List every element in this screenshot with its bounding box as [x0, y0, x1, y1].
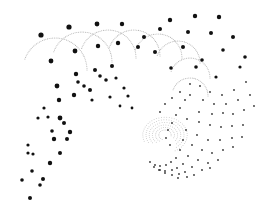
trail-dot: [185, 78, 186, 79]
swirl-dot: [153, 126, 154, 127]
trail-dot: [151, 34, 152, 35]
trail-dot: [128, 30, 129, 31]
trail-dot: [110, 53, 111, 54]
swirl-dot: [167, 122, 168, 123]
trail-dot: [181, 59, 182, 60]
trail-dot: [84, 57, 85, 58]
trail-dot: [88, 38, 89, 39]
small-dot: [154, 164, 156, 166]
trail-dot: [98, 36, 99, 37]
trail-dot: [196, 51, 197, 52]
small-dot: [221, 94, 223, 96]
trail-dot: [53, 51, 54, 52]
swirl-dot: [184, 143, 185, 144]
trail-dot: [205, 65, 206, 66]
small-dot: [167, 129, 169, 131]
trail-dot: [120, 33, 121, 34]
swirl-dot: [170, 125, 171, 126]
swirl-dot: [154, 130, 155, 131]
swirl-dot: [152, 133, 153, 134]
trail-dot: [181, 57, 182, 58]
trail-dot: [86, 69, 87, 70]
trail-dot: [135, 51, 136, 52]
small-dot: [211, 152, 213, 154]
trail-dot: [181, 52, 182, 53]
trail-dot: [74, 44, 75, 45]
large-dot: [68, 130, 72, 134]
trail-dot: [204, 84, 205, 85]
large-dot: [58, 116, 63, 121]
swirl-dot: [180, 134, 181, 135]
trail-dot: [130, 41, 131, 42]
swirl-dot: [151, 141, 152, 142]
trail-dot: [164, 45, 165, 46]
trail-dot: [140, 30, 141, 31]
trail-dot: [157, 44, 158, 45]
trail-dot: [121, 33, 122, 34]
swirl-dot: [171, 134, 172, 135]
trail-dot: [76, 46, 77, 47]
swirl-dot: [146, 138, 147, 139]
swirl-dot: [174, 128, 175, 129]
swirl-dot: [169, 120, 170, 121]
small-dot: [222, 112, 224, 114]
large-dot: [88, 88, 92, 92]
small-dot: [232, 113, 234, 115]
trail-dot: [187, 78, 188, 79]
trail-dot: [76, 32, 77, 33]
large-dot: [55, 84, 60, 89]
trail-dot: [57, 38, 58, 39]
trail-dot: [56, 37, 57, 38]
trail-dot: [156, 33, 157, 34]
trail-dot: [139, 42, 140, 43]
trail-dot: [111, 55, 112, 56]
trail-dot: [178, 61, 179, 62]
trail-dot: [117, 31, 118, 32]
trail-dot: [189, 44, 190, 45]
small-dot: [171, 97, 173, 99]
trail-dot: [66, 40, 67, 41]
large-dot: [38, 183, 42, 187]
small-dot: [196, 134, 198, 136]
large-dot: [62, 121, 66, 125]
swirl-dot: [164, 117, 165, 118]
trail-dot: [195, 78, 196, 79]
swirl-dot: [184, 134, 185, 135]
trail-dot: [206, 66, 207, 67]
trail-dot: [155, 41, 156, 42]
small-dot: [164, 172, 166, 174]
trail-dot: [180, 49, 181, 50]
swirl-dot: [178, 145, 179, 146]
trail-dot: [83, 43, 84, 44]
trail-dot: [179, 47, 180, 48]
trail-dot: [175, 63, 176, 64]
swirl-dot: [150, 139, 151, 140]
trail-dot: [146, 36, 147, 37]
trail-dot: [176, 43, 177, 44]
large-dot: [26, 151, 29, 154]
large-dot: [46, 115, 49, 118]
trail-dot: [64, 39, 65, 40]
swirl-dot: [183, 130, 184, 131]
trail-dot: [124, 31, 125, 32]
trail-dot: [131, 30, 132, 31]
trail-dot: [198, 80, 199, 81]
swirl-dot: [149, 131, 150, 132]
trail-dot: [111, 56, 112, 57]
trail-dot: [155, 34, 156, 35]
swirl-dot: [166, 117, 167, 118]
large-dot: [82, 84, 86, 88]
small-dot: [175, 114, 177, 116]
trail-dot: [113, 39, 114, 40]
trail-dot: [37, 42, 38, 43]
trail-dot: [207, 67, 208, 68]
trail-dot: [82, 46, 83, 47]
trail-dot: [206, 89, 207, 90]
trail-dot: [207, 94, 208, 95]
trail-dot: [81, 48, 82, 49]
trail-dot: [127, 37, 128, 38]
trail-dot: [183, 79, 184, 80]
small-dot: [170, 161, 172, 163]
trail-dot: [58, 42, 59, 43]
large-dot: [221, 48, 225, 52]
